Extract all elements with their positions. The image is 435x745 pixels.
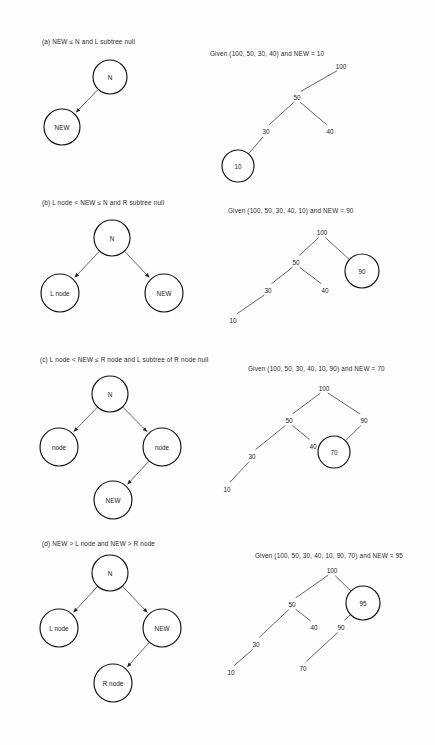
binary-search-tree-insertion-diagram: NNEW10050304010NL nodeNEW1005030401090Nn… [0,0,435,745]
tree-node-label-b-value-50: 50 [292,259,300,266]
schematic-node-label-c-l-node: node [52,444,67,451]
tree-node-label-c-value-10: 10 [223,486,231,493]
schematic-node-label-d-r-node: R node [103,680,124,687]
tree-node-label-d-value-50: 50 [288,601,296,608]
tree-node-label-b-value-100: 100 [317,229,328,236]
tree-edge-c-value-100-to-value-50 [293,393,321,414]
tree-node-label-d-value-40: 40 [310,624,318,631]
tree-node-label-d-value-30: 30 [252,641,260,648]
schematic-edge-d-n-node-to-l-node [74,587,98,613]
schematic-node-label-d-new-node: NEW [155,625,171,632]
tree-edge-b-value-50-to-value-40 [300,267,322,284]
tree-edge-d-value-95-to-value-90 [344,615,350,621]
schematic-node-label-d-n-node: N [108,570,113,577]
schematic-node-label-b-n-node: N [110,235,115,242]
schematic-node-label-b-l-node: L node [50,290,70,297]
tree-node-label-d-value-70: 70 [299,665,307,672]
tree-edge-c-value-50-to-value-40 [292,425,309,439]
tree-edge-d-value-30-to-value-10 [234,649,252,665]
tree-node-label-c-value-30: 30 [248,453,256,460]
tree-edge-d-value-50-to-value-40 [296,609,311,620]
tree-node-label-d-value-10: 10 [227,669,235,676]
schematic-edge-d-new-node-to-r-node [127,643,149,667]
schematic-node-label-a-new-node: NEW [55,124,71,131]
tree-edge-d-value-90-to-value-70 [306,633,337,662]
tree-edge-c-value-30-to-value-10 [230,462,249,482]
schematic-node-label-c-r-node: node [155,444,170,451]
tree-edge-d-value-100-to-value-50 [296,575,329,598]
tree-node-label-b-value-40: 40 [321,287,329,294]
tree-node-label-b-value-10: 10 [229,317,237,324]
tree-node-label-a-value-10: 10 [234,163,242,170]
schematic-node-label-a-n-node: N [108,74,113,81]
tree-edge-c-value-90-to-value-70 [345,426,360,441]
tree-node-label-b-value-30: 30 [264,287,272,294]
tree-edge-a-value-100-to-value-50 [301,71,337,92]
tree-node-label-c-value-50: 50 [285,417,293,424]
tree-edge-b-value-100-to-value-50 [299,238,318,256]
figure-page: (a) NEW ≤ N and L subtree null Given (10… [0,0,435,745]
tree-node-label-a-value-50: 50 [293,94,301,101]
tree-edge-a-value-50-to-value-40 [300,102,326,124]
tree-edge-d-value-50-to-value-30 [259,610,288,638]
schematic-edge-c-r-node-to-new-node [128,461,149,484]
tree-node-label-a-value-100: 100 [336,63,347,70]
tree-node-label-d-value-100: 100 [327,567,338,574]
tree-edge-b-value-50-to-value-30 [272,267,293,283]
tree-node-label-c-value-90: 90 [360,417,368,424]
schematic-node-label-b-new-node: NEW [157,290,173,297]
schematic-edge-c-n-node-to-l-node [74,407,97,431]
schematic-edge-a-n-node-to-new-node [76,90,98,113]
tree-node-label-d-value-90: 90 [337,624,345,631]
tree-edge-c-value-50-to-value-30 [255,425,285,449]
schematic-node-label-c-new-node: NEW [106,497,122,504]
schematic-node-label-c-n-node: N [108,391,113,398]
tree-node-label-a-value-30: 30 [262,128,270,135]
tree-node-label-c-value-100: 100 [319,385,330,392]
tree-edge-c-value-100-to-value-90 [328,393,360,414]
schematic-edge-b-n-node-to-l-node [75,251,100,277]
tree-edge-d-value-100-to-value-95 [335,576,351,591]
tree-edge-b-value-100-to-value-90 [325,238,349,260]
nodes-layer: NNEW10050304010NL nodeNEW1005030401090Nn… [40,60,380,702]
schematic-edge-c-n-node-to-r-node [123,407,147,431]
tree-node-label-c-value-40: 40 [309,443,317,450]
tree-node-label-c-value-70: 70 [330,449,338,456]
tree-node-label-b-value-90: 90 [358,268,366,275]
tree-edge-a-value-30-to-value-10 [248,137,263,154]
schematic-node-label-d-l-node: L node [49,625,69,632]
tree-node-label-d-value-95: 95 [359,600,367,607]
schematic-edge-d-n-node-to-new-node [123,586,148,612]
tree-node-label-a-value-40: 40 [326,128,334,135]
tree-edge-a-value-50-to-value-30 [269,103,293,125]
tree-edge-b-value-30-to-value-10 [237,295,265,314]
schematic-edge-b-n-node-to-new-node [125,251,150,277]
